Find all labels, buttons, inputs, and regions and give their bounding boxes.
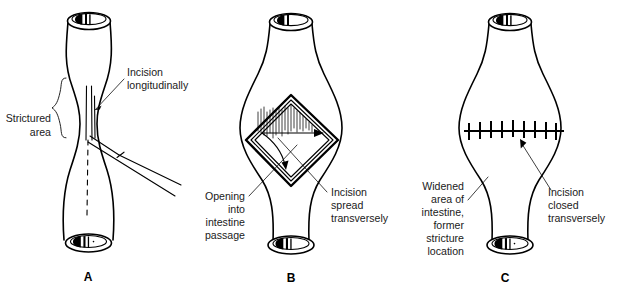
bottom-lumen-opening-b: [268, 236, 314, 254]
top-lumen-opening-b: [270, 14, 313, 31]
panel-letter-b: B: [287, 271, 296, 285]
label-opening-into-intestine-passage: Opening into intestine passage: [205, 145, 297, 241]
incision-longitudinally-line-1: Incision: [127, 66, 163, 78]
widened-line-5: stricture: [426, 232, 464, 244]
opening-line-3: intestine: [206, 216, 246, 228]
spread-line-2: spread: [331, 199, 363, 211]
strictured-area-brace: [52, 78, 66, 138]
closed-line-1: Incision: [548, 186, 584, 198]
incision-longitudinally-line-2: longitudinally: [127, 79, 189, 91]
widened-line-6: location: [427, 245, 464, 257]
lumen-axis-dashed: [87, 140, 88, 215]
strictured-area-line-2: area: [30, 126, 51, 138]
strictured-area-line-1: Strictured: [6, 112, 51, 124]
closed-line-3: transversely: [548, 212, 606, 224]
top-lumen-opening-a: [68, 13, 111, 30]
label-strictured-area: Strictured area: [6, 112, 51, 138]
panel-c: Widened area of intestine, former strict…: [422, 14, 606, 286]
opening-line-1: Opening: [205, 190, 245, 202]
bottom-lumen-opening-a: [66, 234, 112, 252]
panel-letter-a: A: [84, 270, 93, 284]
longitudinal-incision: [86, 86, 95, 140]
spread-line-1: Incision: [331, 186, 367, 198]
panel-b: Opening into intestine passage Incision …: [205, 14, 389, 286]
intestine-strictured-tube: [63, 22, 114, 240]
top-lumen-opening-c: [489, 14, 532, 31]
opening-line-2: into: [228, 203, 245, 215]
panel-letter-c: C: [501, 271, 510, 285]
widened-line-4: former: [433, 219, 464, 231]
spread-line-3: transversely: [331, 212, 389, 224]
label-incision-closed-transversely: Incision closed transversely: [520, 139, 606, 224]
bottom-lumen-opening-c: [487, 236, 533, 254]
closed-line-2: closed: [548, 199, 579, 211]
strictureplasty-figure: Strictured area Incision longitudinally …: [0, 0, 618, 295]
scalpel-instrument: [88, 136, 181, 196]
widened-line-2: area of: [431, 193, 464, 205]
transverse-suture-line: [464, 120, 564, 140]
label-widened-area: Widened area of intestine, former strict…: [422, 177, 488, 257]
widened-line-1: Widened: [422, 180, 464, 192]
widened-line-3: intestine,: [422, 206, 464, 218]
panel-a: Strictured area Incision longitudinally …: [6, 13, 189, 285]
opening-line-4: passage: [205, 229, 245, 241]
